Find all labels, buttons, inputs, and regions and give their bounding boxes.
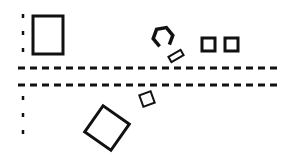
small-square-1: [202, 38, 215, 51]
open-hexagon: [153, 28, 173, 47]
small-square-2: [225, 38, 238, 51]
small-tilted-square: [139, 91, 154, 106]
shapes-group: [33, 16, 238, 150]
small-tilted-bar: [168, 50, 183, 62]
tall-rectangle: [33, 16, 63, 54]
large-tilted-square: [85, 106, 130, 151]
diagram-canvas: [0, 0, 294, 157]
dashed-lines: [18, 14, 278, 134]
